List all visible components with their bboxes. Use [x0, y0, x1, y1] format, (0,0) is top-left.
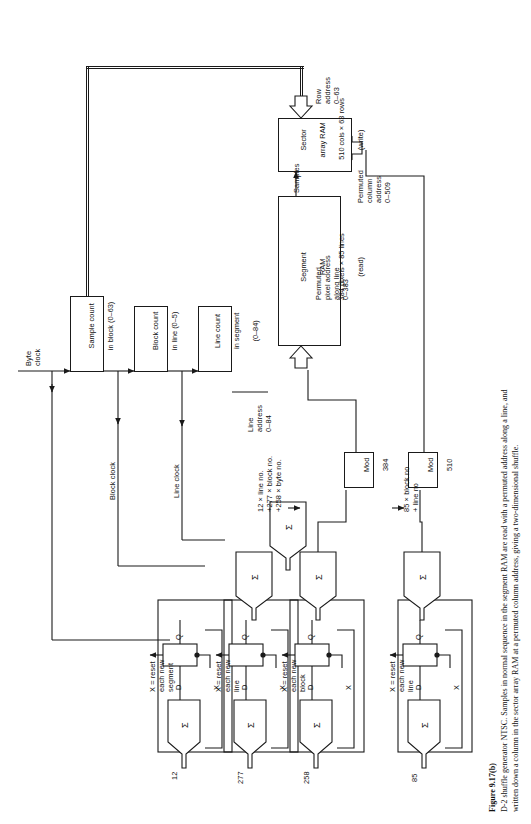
- figure-number: Figure 9.17(b): [488, 763, 497, 812]
- sum-expression-pointer: [0, 0, 531, 824]
- figure-caption-text: D-2 shuffle generator NTSC. Samples in n…: [500, 389, 520, 812]
- figure-caption: Figure 9.17(b) D-2 shuffle generator NTS…: [476, 382, 522, 812]
- figure-canvas: Sample count in block (0–63) Block count…: [0, 0, 531, 824]
